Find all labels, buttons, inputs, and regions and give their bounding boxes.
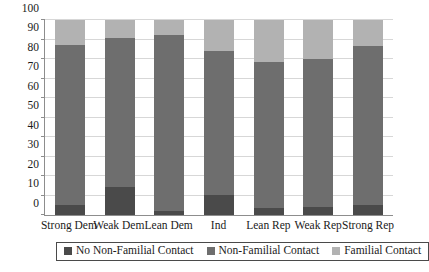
x-axis-tick-label: Strong Rep bbox=[342, 219, 394, 233]
bar-segment[interactable] bbox=[254, 62, 284, 208]
y-axis-tick-label: 20 bbox=[28, 159, 40, 171]
bar-segment[interactable] bbox=[105, 38, 135, 187]
bars-layer bbox=[45, 20, 393, 215]
bar-segment[interactable] bbox=[154, 20, 184, 35]
bar-segment[interactable] bbox=[353, 20, 383, 46]
bar-stack bbox=[154, 20, 184, 215]
bar-stack bbox=[55, 20, 85, 215]
bar-stack bbox=[254, 20, 284, 215]
legend-swatch-icon bbox=[207, 247, 215, 255]
legend-item[interactable]: Familial Contact bbox=[332, 245, 421, 257]
bar-segment[interactable] bbox=[204, 51, 234, 194]
x-axis-tick-label: Weak Rep bbox=[295, 219, 342, 233]
x-axis-tick-label: Lean Dem bbox=[145, 219, 193, 233]
bar-segment[interactable] bbox=[55, 45, 85, 205]
bar-stack bbox=[204, 20, 234, 215]
bar-group[interactable] bbox=[244, 20, 294, 215]
bar-stack bbox=[105, 20, 135, 215]
bar-segment[interactable] bbox=[353, 46, 383, 205]
legend-item[interactable]: No Non-Familial Contact bbox=[64, 245, 194, 257]
bar-segment[interactable] bbox=[254, 20, 284, 62]
bar-segment[interactable] bbox=[204, 195, 234, 215]
bar-stack bbox=[303, 20, 333, 215]
bar-group[interactable] bbox=[144, 20, 194, 215]
legend-label: Familial Contact bbox=[344, 245, 421, 257]
bar-segment[interactable] bbox=[154, 35, 184, 211]
plot-wrapper: 0102030405060708090100 bbox=[44, 20, 393, 216]
bar-group[interactable] bbox=[194, 20, 244, 215]
y-axis-tick-label: 10 bbox=[28, 178, 40, 190]
bar-segment[interactable] bbox=[303, 59, 333, 207]
bar-group[interactable] bbox=[95, 20, 145, 215]
bar-group[interactable] bbox=[45, 20, 95, 215]
bar-segment[interactable] bbox=[154, 211, 184, 215]
y-axis-tick-label: 80 bbox=[28, 42, 40, 54]
x-axis-tick-label: Weak Dem bbox=[93, 219, 144, 233]
y-axis-tick-label: 90 bbox=[28, 22, 40, 34]
bar-segment[interactable] bbox=[303, 207, 333, 215]
bar-segment[interactable] bbox=[105, 187, 135, 215]
chart-legend: No Non-Familial ContactNon-Familial Cont… bbox=[56, 242, 429, 261]
bar-segment[interactable] bbox=[204, 20, 234, 51]
x-axis-tick-label: Strong Dem bbox=[41, 219, 97, 233]
y-axis-tick-label: 70 bbox=[28, 61, 40, 73]
bar-segment[interactable] bbox=[105, 20, 135, 38]
x-axis-labels: Strong DemWeak DemLean DemIndLean RepWea… bbox=[44, 219, 393, 237]
y-axis-tick-label: 40 bbox=[28, 120, 40, 132]
bar-segment[interactable] bbox=[254, 208, 284, 215]
plot-area: 0102030405060708090100 bbox=[44, 20, 393, 216]
legend-swatch-icon bbox=[332, 247, 340, 255]
legend-label: Non-Familial Contact bbox=[219, 245, 320, 257]
bar-segment[interactable] bbox=[55, 205, 85, 215]
bar-segment[interactable] bbox=[303, 20, 333, 59]
bar-segment[interactable] bbox=[353, 205, 383, 215]
y-axis-tick-label: 60 bbox=[28, 81, 40, 93]
legend-item[interactable]: Non-Familial Contact bbox=[207, 245, 320, 257]
bar-segment[interactable] bbox=[55, 20, 85, 45]
y-axis-tick-label: 100 bbox=[22, 3, 39, 15]
bar-group[interactable] bbox=[294, 20, 344, 215]
y-axis-tick-label: 0 bbox=[33, 198, 39, 210]
legend-swatch-icon bbox=[64, 247, 72, 255]
y-axis-tick-label: 30 bbox=[28, 139, 40, 151]
x-axis-tick-label: Ind bbox=[211, 219, 226, 233]
y-axis-tick-label: 50 bbox=[28, 100, 40, 112]
bar-stack bbox=[353, 20, 383, 215]
x-axis-tick-label: Lean Rep bbox=[246, 219, 290, 233]
legend-label: No Non-Familial Contact bbox=[76, 245, 194, 257]
bar-group[interactable] bbox=[343, 20, 393, 215]
